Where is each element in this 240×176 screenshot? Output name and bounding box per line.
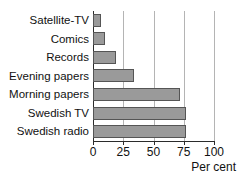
x-tick-50 [154,141,155,145]
category-label: Records [0,48,89,67]
bar-row [93,85,180,104]
bar [93,88,180,101]
gridline-100 [214,11,215,141]
bar [93,107,186,120]
x-tick-25 [123,141,124,145]
chart-title-cropped [0,0,240,7]
bar [93,125,186,138]
bar-row [93,122,186,141]
category-label: Swedish radio [0,122,89,141]
bar-chart: Satellite-TVComicsRecordsEvening papersM… [0,0,240,176]
plot-area [93,11,214,141]
x-axis-tick-labels: 0255075100 [0,145,240,161]
category-label: Comics [0,30,89,49]
bar-row [93,48,116,67]
x-tick-0 [93,141,94,145]
bar [93,14,101,27]
bar-row [93,104,186,123]
category-label: Evening papers [0,67,89,86]
x-tick-75 [184,141,185,145]
bar-row [93,11,101,30]
bar [93,69,134,82]
x-tick-label: 75 [177,145,190,159]
category-label: Swedish TV [0,104,89,123]
bar-row [93,67,134,86]
category-axis-labels: Satellite-TVComicsRecordsEvening papersM… [0,11,89,141]
x-tick-label: 0 [90,145,97,159]
bar [93,32,105,45]
x-tick-label: 100 [204,145,224,159]
bar [93,51,116,64]
bar-row [93,30,105,49]
x-tick-label: 25 [117,145,130,159]
category-label: Satellite-TV [0,11,89,30]
category-label: Morning papers [0,85,89,104]
x-tick-label: 50 [147,145,160,159]
x-tick-100 [214,141,215,145]
x-axis-title: Per cent [191,160,236,174]
